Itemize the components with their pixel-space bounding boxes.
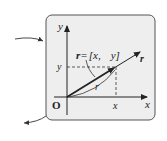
x-axis-label: x: [144, 98, 150, 110]
x-tick-label: x: [112, 100, 118, 111]
magnitude-label: r: [95, 81, 99, 92]
vector-diagram: y x O y x r=[x,y] r r: [0, 0, 167, 141]
incoming-arrow-icon: [15, 38, 43, 41]
vector-direction-label: r: [140, 53, 144, 64]
origin-label: O: [52, 99, 61, 111]
y-axis-label: y: [57, 20, 63, 32]
outgoing-arrow-icon: [24, 116, 46, 123]
y-tick-label: y: [56, 61, 62, 72]
vector-equation: r=[x,y]: [76, 49, 120, 61]
